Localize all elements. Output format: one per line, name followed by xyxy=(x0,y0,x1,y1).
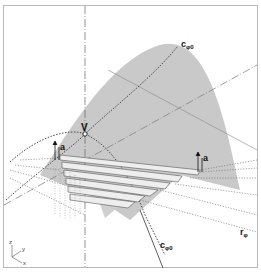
axis-label-y: y xyxy=(22,246,25,252)
axis-label-x: x xyxy=(23,260,26,266)
diagram-canvas: V a a cφ0 cφ0 rφ z y x xyxy=(0,0,261,272)
label-vertex: V xyxy=(81,122,88,133)
axis-label-z: z xyxy=(9,239,12,245)
